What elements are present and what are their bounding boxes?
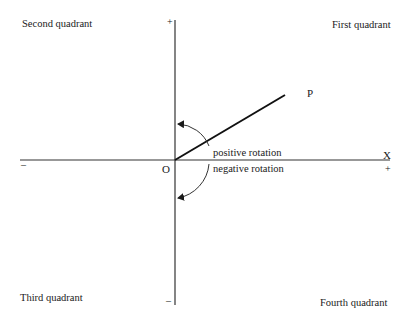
y-positive-sign: + [167, 17, 173, 27]
x-negative-sign: – [21, 160, 26, 170]
y-negative-sign: – [166, 296, 171, 306]
third-quadrant-label: Third quadrant [20, 293, 83, 304]
x-axis-label: X [383, 150, 391, 161]
point-p-label: P [307, 88, 313, 99]
origin-label: O [162, 164, 170, 175]
first-quadrant-label: First quadrant [332, 20, 391, 31]
negative-rotation-label: negative rotation [213, 164, 284, 175]
negative-rotation-arc [178, 164, 209, 198]
x-positive-sign: + [385, 164, 391, 174]
coordinate-diagram [0, 0, 414, 320]
second-quadrant-label: Second quadrant [22, 19, 92, 30]
fourth-quadrant-label: Fourth quadrant [320, 298, 387, 309]
positive-rotation-label: positive rotation [213, 148, 282, 159]
